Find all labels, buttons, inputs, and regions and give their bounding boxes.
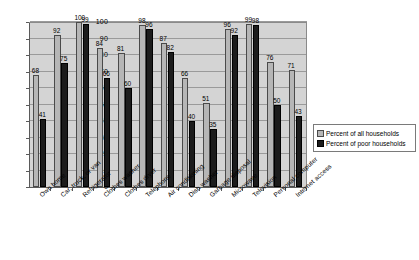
- bar-all-households: [139, 25, 145, 187]
- bar-value-label: 60: [124, 80, 131, 87]
- bar-value-label: 66: [181, 70, 188, 77]
- bar-value-label: 81: [117, 45, 124, 52]
- bar-value-label: 75: [60, 55, 67, 62]
- bar-value-label: 41: [39, 111, 46, 118]
- bar-group: 8160: [118, 22, 131, 187]
- bar-poor-households: [232, 35, 238, 187]
- bar-all-households: [161, 43, 167, 187]
- bar-group: 5135: [203, 22, 216, 187]
- bar-value-label: 66: [103, 70, 110, 77]
- chart-legend: Percent of all households Percent of poo…: [313, 124, 416, 152]
- bar-group: 6841: [33, 22, 46, 187]
- bar-group: 8782: [161, 22, 174, 187]
- legend-label-all-households: Percent of all households: [326, 130, 399, 137]
- bar-group: 9275: [54, 22, 67, 187]
- bar-value-label: 50: [273, 97, 280, 104]
- bar-all-households: [76, 22, 82, 187]
- bar-value-label: 82: [167, 44, 174, 51]
- y-axis-tick-mark: [26, 187, 29, 188]
- bar-group: 6640: [182, 22, 195, 187]
- bar-poor-households: [83, 24, 89, 187]
- bar-value-label: 35: [209, 121, 216, 128]
- bar-value-label: 40: [188, 113, 195, 120]
- legend-swatch-all-households-icon: [317, 130, 324, 137]
- bar-group: 7143: [289, 22, 302, 187]
- bar-value-label: 96: [145, 21, 152, 28]
- legend-label-poor-households: Percent of poor households: [326, 140, 406, 147]
- bar-value-label: 99: [81, 16, 88, 23]
- bar-group: 7650: [267, 22, 280, 187]
- bar-poor-households: [146, 29, 152, 187]
- bar-all-households: [289, 70, 295, 187]
- bar-all-households: [33, 75, 39, 187]
- bar-value-label: 51: [202, 95, 209, 102]
- bar-value-label: 43: [294, 108, 301, 115]
- bar-all-households: [225, 29, 231, 187]
- bar-group: 10099: [76, 22, 89, 187]
- bar-value-label: 71: [287, 62, 294, 69]
- legend-item-all: Percent of all households: [317, 128, 412, 138]
- bar-group: 9896: [139, 22, 152, 187]
- bar-poor-households: [253, 25, 259, 187]
- bar-all-households: [118, 53, 124, 187]
- bar-chart: 0102030405060708090100 68419275100998466…: [0, 0, 419, 260]
- legend-item-poor: Percent of poor households: [317, 138, 412, 148]
- bar-value-label: 98: [252, 17, 259, 24]
- bar-value-label: 76: [266, 54, 273, 61]
- bar-value-label: 84: [96, 40, 103, 47]
- bar-value-label: 68: [32, 67, 39, 74]
- bar-all-households: [267, 62, 273, 187]
- bar-poor-households: [61, 63, 67, 187]
- bar-value-label: 92: [53, 27, 60, 34]
- bar-poor-households: [40, 119, 46, 187]
- legend-swatch-poor-households-icon: [317, 140, 324, 147]
- bar-value-label: 92: [231, 27, 238, 34]
- bar-all-households: [182, 78, 188, 187]
- bar-value-label: 87: [160, 35, 167, 42]
- bars-layer: 6841927510099846681609896878266405135969…: [29, 22, 306, 187]
- bar-group: 9692: [225, 22, 238, 187]
- bar-poor-households: [168, 52, 174, 187]
